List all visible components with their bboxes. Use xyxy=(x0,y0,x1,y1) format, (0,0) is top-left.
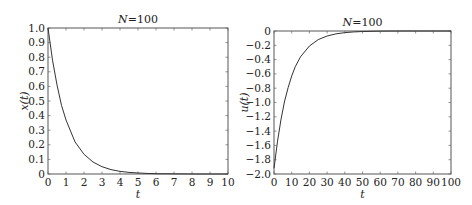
x-tick-label: 40 xyxy=(338,176,351,188)
chart-title: N=100 xyxy=(342,16,383,29)
y-tick-label: 0.1 xyxy=(28,153,45,165)
y-tick-label: 0.2 xyxy=(28,138,45,150)
x-tick-label: 1 xyxy=(63,176,70,188)
x-tick-label: 70 xyxy=(391,176,404,188)
y-tick-label: −0.8 xyxy=(246,82,272,94)
x-tick-label: 90 xyxy=(427,176,440,188)
y-axis-label: u(t) xyxy=(238,92,251,112)
y-tick-label: 0.6 xyxy=(28,80,45,92)
plot-x-of-t: 01234567891000.10.20.30.40.50.60.70.80.9… xyxy=(18,13,235,201)
y-tick-label: −1.4 xyxy=(246,125,272,137)
y-tick-label: −0.4 xyxy=(246,53,272,65)
x-axis-label: t xyxy=(136,188,141,201)
axes-frame xyxy=(48,28,228,174)
x-tick-label: 7 xyxy=(171,176,178,188)
x-tick-label: 0 xyxy=(45,176,52,188)
x-tick-label: 80 xyxy=(409,176,422,188)
x-tick-label: 60 xyxy=(374,176,387,188)
series-line xyxy=(48,28,228,174)
x-tick-label: 20 xyxy=(303,176,316,188)
x-tick-label: 100 xyxy=(441,176,461,188)
x-axis-label: t xyxy=(360,188,365,201)
y-tick-label: 0 xyxy=(264,25,271,37)
y-tick-label: 1.0 xyxy=(28,22,45,34)
y-tick-label: 0.8 xyxy=(28,51,45,63)
x-tick-label: 50 xyxy=(356,176,369,188)
y-tick-label: 0.9 xyxy=(28,36,45,48)
x-tick-label: 6 xyxy=(153,176,160,188)
x-tick-label: 30 xyxy=(320,176,333,188)
x-tick-label: 9 xyxy=(207,176,214,188)
x-tick-label: 10 xyxy=(221,176,234,188)
series-line xyxy=(274,31,451,168)
x-tick-label: 0 xyxy=(271,176,278,188)
y-tick-label: −1.8 xyxy=(246,153,272,165)
x-tick-label: 5 xyxy=(135,176,142,188)
x-tick-label: 8 xyxy=(189,176,196,188)
y-tick-label: 0.7 xyxy=(28,65,45,77)
x-tick-label: 2 xyxy=(81,176,88,188)
y-tick-label: 0 xyxy=(38,168,45,180)
x-tick-label: 4 xyxy=(117,176,124,188)
x-tick-label: 10 xyxy=(285,176,298,188)
axes-frame xyxy=(274,31,451,174)
y-tick-label: −2.0 xyxy=(246,168,272,180)
x-tick-label: 3 xyxy=(99,176,106,188)
y-tick-label: −0.6 xyxy=(246,67,272,79)
plot-u-of-t: 0102030405060708090100−2.0−1.8−1.6−1.4−1… xyxy=(238,16,461,201)
y-tick-label: −1.6 xyxy=(246,139,272,151)
y-tick-label: 0.3 xyxy=(28,124,45,136)
y-axis-label: x(t) xyxy=(18,91,31,110)
figure: 01234567891000.10.20.30.40.50.60.70.80.9… xyxy=(0,0,472,205)
y-tick-label: −0.2 xyxy=(246,39,272,51)
chart-title: N=100 xyxy=(117,13,158,26)
